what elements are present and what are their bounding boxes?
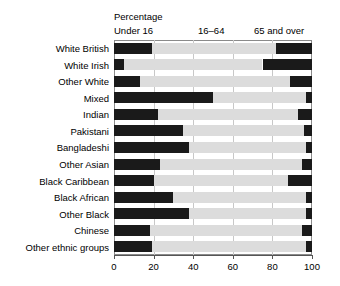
stacked-bar [114, 225, 312, 236]
stacked-bar [114, 192, 312, 203]
bar-segment [306, 142, 312, 153]
stacked-bar [114, 159, 312, 170]
bar-segment [114, 142, 189, 153]
bar-row: Mixed [114, 90, 312, 107]
stacked-bar [114, 92, 312, 103]
bar-segment [152, 43, 277, 54]
category-label: Other ethnic groups [26, 241, 109, 252]
bar-segment [114, 192, 173, 203]
x-tick [312, 255, 313, 259]
bar-segment [114, 109, 158, 120]
x-axis: 020406080100 [114, 255, 312, 285]
bar-segment [114, 125, 183, 136]
category-label: Other Asian [59, 159, 109, 170]
stacked-bar [114, 76, 312, 87]
x-tick [272, 255, 273, 259]
plot-area: White BritishWhite IrishOther WhiteMixed… [114, 40, 312, 255]
bar-segment [276, 43, 312, 54]
caption-percentage: Percentage [114, 11, 163, 22]
x-tick [233, 255, 234, 259]
category-label: White British [56, 43, 109, 54]
bar-segment [306, 92, 312, 103]
category-label: Bangladeshi [57, 142, 109, 153]
stacked-bar-chart: Percentage Under 16 16–64 65 and over Wh… [0, 0, 340, 286]
category-label: Other Black [59, 208, 109, 219]
bar-segment [158, 109, 299, 120]
bar-segment [306, 208, 312, 219]
bar-segment [152, 241, 306, 252]
bar-segment [150, 225, 302, 236]
category-label: Other White [58, 76, 109, 87]
legend-label-16-64: 16–64 [198, 25, 224, 36]
stacked-bar [114, 241, 312, 252]
bar-segment [298, 109, 312, 120]
x-tick [193, 255, 194, 259]
bar-segment [306, 241, 312, 252]
bar-segment [114, 225, 150, 236]
bar-segment [189, 208, 306, 219]
bar-segment [114, 241, 152, 252]
bar-segment [124, 59, 263, 70]
bar-row: Bangladeshi [114, 139, 312, 156]
bar-segment [114, 59, 124, 70]
stacked-bar [114, 59, 312, 70]
stacked-bar [114, 43, 312, 54]
x-tick-label: 100 [304, 261, 320, 272]
bar-segment [302, 159, 312, 170]
bar-segment [140, 76, 290, 87]
bar-segment [183, 125, 304, 136]
x-tick-label: 20 [148, 261, 159, 272]
column-captions: Percentage Under 16 16–64 65 and over [0, 0, 340, 40]
legend-label-under-16: Under 16 [114, 25, 153, 36]
category-label: Mixed [84, 92, 109, 103]
x-tick-label: 40 [188, 261, 199, 272]
x-tick [154, 255, 155, 259]
bar-row: White Irish [114, 57, 312, 74]
x-tick [114, 255, 115, 259]
stacked-bar [114, 142, 312, 153]
stacked-bar [114, 208, 312, 219]
bar-segment [173, 192, 306, 203]
category-label: Indian [83, 109, 109, 120]
bar-row: Other Asian [114, 156, 312, 173]
bar-segment [114, 92, 213, 103]
bar-segment [160, 159, 303, 170]
x-axis-line [114, 255, 312, 256]
bar-row: Other White [114, 73, 312, 90]
category-label: Chinese [74, 225, 109, 236]
legend-label-65-and-over: 65 and over [254, 25, 304, 36]
bar-segment [114, 159, 160, 170]
bar-row: Black African [114, 189, 312, 206]
bar-row: Other Black [114, 205, 312, 222]
bar-row: Pakistani [114, 123, 312, 140]
stacked-bar [114, 175, 312, 186]
bar-segment [288, 175, 312, 186]
category-label: Black African [54, 192, 109, 203]
bar-row: Black Caribbean [114, 172, 312, 189]
x-tick-label: 0 [111, 261, 116, 272]
stacked-bar [114, 125, 312, 136]
bar-row: Chinese [114, 222, 312, 239]
bar-segment [154, 175, 289, 186]
bar-segment [263, 59, 313, 70]
bar-segment [306, 192, 312, 203]
bar-segment [189, 142, 306, 153]
bar-segment [213, 92, 306, 103]
category-label: White Irish [64, 59, 109, 70]
category-label: Pakistani [70, 125, 109, 136]
bar-segment [290, 76, 312, 87]
bar-segment [302, 225, 312, 236]
bar-segment [114, 175, 154, 186]
bar-row: Indian [114, 106, 312, 123]
bar-segment [114, 76, 140, 87]
bar-row: Other ethnic groups [114, 238, 312, 255]
stacked-bar [114, 109, 312, 120]
bar-segment [304, 125, 312, 136]
category-label: Black Caribbean [39, 175, 109, 186]
x-tick-label: 60 [228, 261, 239, 272]
bar-segment [114, 43, 152, 54]
x-tick-label: 80 [267, 261, 278, 272]
bar-row: White British [114, 40, 312, 57]
bar-segment [114, 208, 189, 219]
